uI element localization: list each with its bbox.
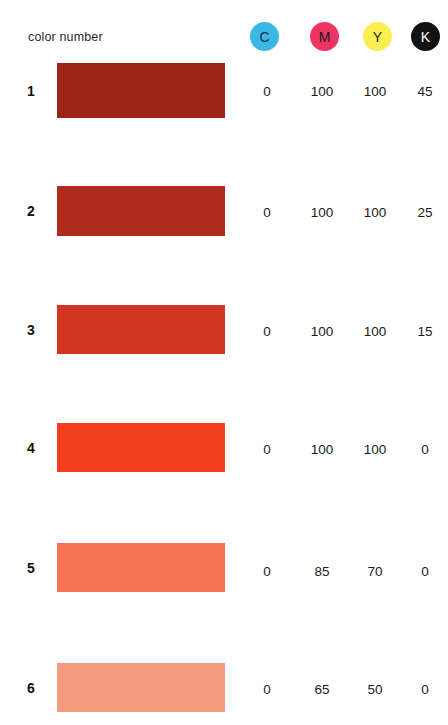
value-cell-cyan: 0 <box>250 325 284 339</box>
value-cell-magenta: 65 <box>305 683 339 697</box>
cmyk-color-chart: color number CMYK10100100452010010025301… <box>0 0 448 725</box>
value-cell-yellow: 70 <box>358 565 392 579</box>
value-cell-magenta: 100 <box>305 85 339 99</box>
value-cell-yellow: 50 <box>358 683 392 697</box>
row-number-label: 2 <box>20 204 42 218</box>
value-cell-yellow: 100 <box>358 325 392 339</box>
ink-channel-label-black: K <box>421 29 430 43</box>
value-cell-cyan: 0 <box>250 443 284 457</box>
color-number-header-label: color number <box>28 30 103 44</box>
row-number-label: 5 <box>20 561 42 575</box>
row-number-label: 6 <box>20 681 42 695</box>
ink-channel-label-cyan: C <box>259 29 269 43</box>
value-cell-magenta: 100 <box>305 325 339 339</box>
value-cell-cyan: 0 <box>250 683 284 697</box>
row-number-label: 1 <box>20 84 42 98</box>
value-cell-black: 15 <box>408 325 442 339</box>
value-cell-magenta: 100 <box>305 443 339 457</box>
color-swatch <box>57 423 225 472</box>
value-cell-yellow: 100 <box>358 443 392 457</box>
color-swatch <box>57 63 225 118</box>
color-swatch <box>57 543 225 592</box>
row-number-label: 3 <box>20 323 42 337</box>
value-cell-black: 0 <box>408 565 442 579</box>
value-cell-yellow: 100 <box>358 85 392 99</box>
color-swatch <box>57 663 225 712</box>
color-swatch <box>57 305 225 354</box>
value-cell-black: 0 <box>408 683 442 697</box>
value-cell-black: 25 <box>408 206 442 220</box>
value-cell-cyan: 0 <box>250 206 284 220</box>
value-cell-cyan: 0 <box>250 565 284 579</box>
ink-channel-dot-black: K <box>411 22 440 51</box>
ink-channel-dot-cyan: C <box>250 22 279 51</box>
value-cell-magenta: 85 <box>305 565 339 579</box>
ink-channel-dot-magenta: M <box>310 22 339 51</box>
row-number-label: 4 <box>20 441 42 455</box>
value-cell-magenta: 100 <box>305 206 339 220</box>
color-swatch <box>57 186 225 236</box>
value-cell-cyan: 0 <box>250 85 284 99</box>
ink-channel-label-yellow: Y <box>373 29 382 43</box>
value-cell-yellow: 100 <box>358 206 392 220</box>
ink-channel-label-magenta: M <box>319 29 331 43</box>
value-cell-black: 0 <box>408 443 442 457</box>
value-cell-black: 45 <box>408 85 442 99</box>
ink-channel-dot-yellow: Y <box>363 22 392 51</box>
